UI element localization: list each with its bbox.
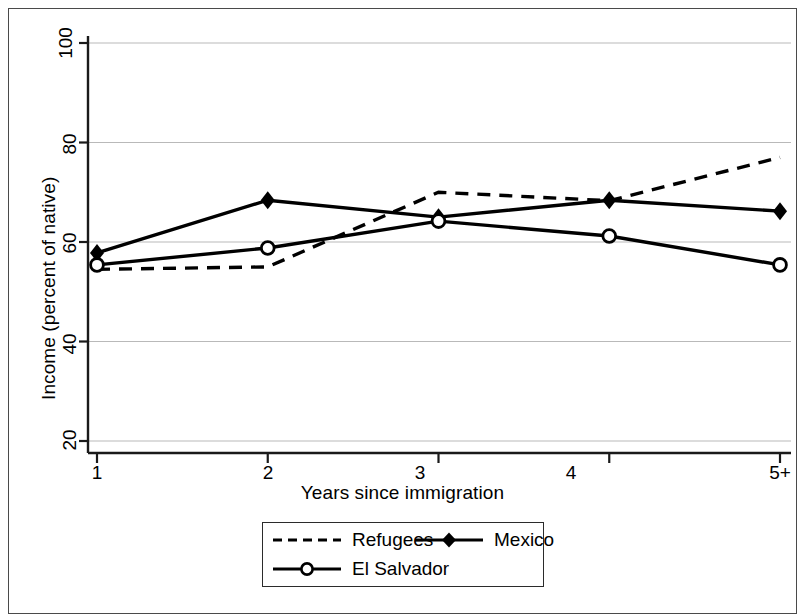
legend-label-el-salvador: El Salvador [352, 558, 449, 580]
marker-el-salvador-2 [261, 242, 274, 255]
dashed-line-swatch [271, 530, 343, 550]
marker-mexico-2 [261, 191, 275, 209]
gridlines-group [88, 43, 791, 441]
solid-line-circle-swatch [271, 559, 343, 579]
marker-mexico-5+ [773, 202, 787, 220]
legend-item-refugees: Refugees [271, 527, 433, 553]
legend-label-mexico: Mexico [494, 529, 554, 551]
figure-container: Income (percent of native) Years since i… [0, 0, 805, 616]
legend-item-mexico: Mexico [413, 527, 554, 553]
legend: Refugees Mexico El Salvador [262, 522, 544, 587]
marker-el-salvador-4 [603, 230, 616, 243]
marker-el-salvador-5+ [774, 258, 787, 271]
marker-el-salvador-1 [91, 258, 104, 271]
marker-el-salvador-3 [432, 215, 445, 228]
marker-mexico-4 [602, 191, 616, 209]
legend-item-el-salvador: El Salvador [271, 556, 449, 582]
solid-line-diamond-swatch [413, 530, 485, 550]
